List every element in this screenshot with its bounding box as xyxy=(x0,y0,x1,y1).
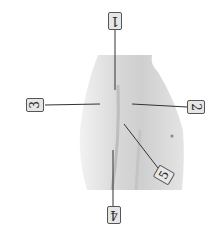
callout-label-1: 1 xyxy=(108,12,122,30)
callout-label-2: 2 xyxy=(187,100,205,114)
anatomy-figure xyxy=(0,0,224,240)
callout-label-4: 4 xyxy=(107,206,121,224)
callout-label-3: 3 xyxy=(26,98,44,112)
